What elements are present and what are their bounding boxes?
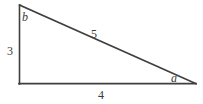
right-triangle-figure: 3 5 4 a b [0, 0, 203, 104]
angle-b-label: b [22, 11, 28, 23]
hypotenuse-line [20, 5, 197, 84]
leg-base-label: 4 [98, 89, 104, 101]
leg-vertical-label: 3 [7, 45, 13, 57]
angle-a-label: a [171, 72, 177, 84]
hypotenuse-label: 5 [91, 28, 97, 40]
